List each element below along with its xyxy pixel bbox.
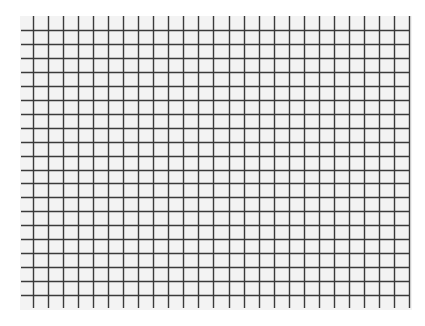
grid-lines <box>0 0 425 326</box>
horizontal-grid-lines <box>21 31 410 296</box>
vertical-grid-lines <box>34 16 410 308</box>
